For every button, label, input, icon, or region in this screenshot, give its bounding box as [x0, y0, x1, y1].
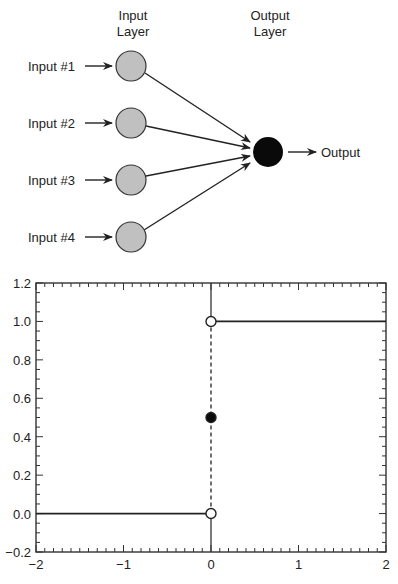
output-layer-title-line1: Output: [250, 8, 289, 23]
output-layer-title-line2: Layer: [254, 24, 287, 39]
y-tick-label: 1.2: [13, 276, 31, 291]
input-node-2: [116, 108, 146, 138]
y-tick-label: 1.0: [13, 314, 31, 329]
x-tick-label: 1: [295, 557, 302, 572]
network-diagram: Input Layer Output Layer Input #1 Input …: [28, 8, 360, 252]
output-label: Output: [321, 145, 360, 160]
open-point-marker: [206, 316, 216, 326]
output-node: [253, 137, 283, 167]
x-tick-label: −1: [116, 557, 131, 572]
y-tick-label: 0.2: [13, 468, 31, 483]
step-function-chart: −2−1012−0.20.00.20.40.60.81.01.2: [5, 276, 389, 572]
y-tick-label: 0.0: [13, 507, 31, 522]
input-node-1: [116, 51, 146, 81]
y-tick-label: 0.4: [13, 430, 31, 445]
y-tick-label: 0.6: [13, 391, 31, 406]
y-tick-label: −0.2: [5, 545, 31, 560]
input-label-2: Input #2: [28, 116, 75, 131]
input-layer-title-line2: Layer: [117, 24, 150, 39]
y-tick-label: 0.8: [13, 353, 31, 368]
input-label-4: Input #4: [28, 230, 75, 245]
input-label-3: Input #3: [28, 173, 75, 188]
x-tick-label: 2: [382, 557, 389, 572]
input-node-3: [116, 165, 146, 195]
x-tick-label: 0: [207, 557, 214, 572]
figure: Input Layer Output Layer Input #1 Input …: [0, 0, 398, 584]
input-label-1: Input #1: [28, 59, 75, 74]
open-point-marker: [206, 509, 216, 519]
connection-2: [146, 126, 250, 148]
connection-1: [145, 73, 250, 142]
input-layer-title-line1: Input: [119, 8, 148, 23]
filled-point-marker: [206, 413, 216, 423]
input-node-4: [116, 222, 146, 252]
